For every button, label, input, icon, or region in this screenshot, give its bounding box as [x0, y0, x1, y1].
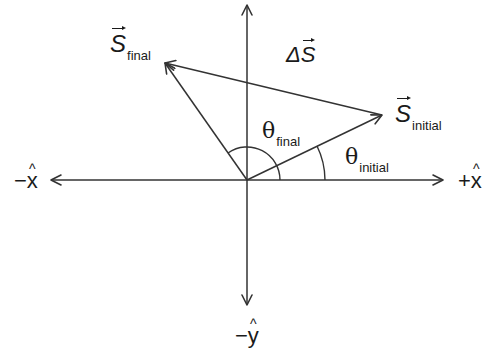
neg-y-sign: −: [235, 323, 248, 348]
pos-x-sign: +: [458, 168, 471, 193]
delta-symbol: Δ: [286, 42, 301, 67]
vector-arrow-icon: [397, 96, 411, 102]
neg-y-axis-label: −^y: [235, 325, 259, 347]
theta-initial-arc: [317, 146, 325, 180]
vector-arrow-icon: [112, 26, 126, 32]
theta-symbol: θ: [262, 118, 275, 143]
delta-s-vector: [165, 63, 382, 115]
vector-diagram: [0, 0, 496, 355]
theta-final-label: θfinal: [262, 120, 300, 142]
pos-x-axis-label: +^x: [458, 170, 482, 192]
s-initial-symbol: S: [395, 102, 411, 126]
neg-x-axis-label: −^x: [14, 170, 38, 192]
delta-s-label: ΔS: [286, 44, 315, 66]
s-initial-subscript: initial: [412, 118, 442, 133]
delta-s-symbol: S: [301, 44, 316, 66]
hat-icon: ^: [471, 162, 482, 176]
theta-final-subscript: final: [276, 134, 300, 149]
hat-icon: ^: [27, 162, 38, 176]
s-final-vector: [165, 63, 247, 180]
s-final-symbol: S: [110, 32, 126, 56]
vector-arrow-icon: [303, 38, 316, 44]
theta-symbol: θ: [345, 144, 358, 169]
neg-x-sign: −: [14, 168, 27, 193]
s-initial-label: Sinitial: [395, 102, 442, 126]
s-final-label: Sfinal: [110, 32, 151, 56]
x-hat: ^x: [471, 170, 482, 192]
theta-initial-label: θinitial: [345, 146, 389, 168]
s-final-subscript: final: [127, 48, 151, 63]
y-hat: ^y: [248, 325, 259, 347]
hat-icon: ^: [248, 317, 259, 331]
theta-initial-subscript: initial: [359, 160, 389, 175]
x-hat: ^x: [27, 170, 38, 192]
